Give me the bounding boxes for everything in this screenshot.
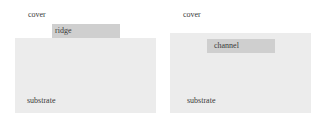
channel-label: channel [214, 41, 239, 51]
ridge-label: ridge [55, 26, 71, 36]
cover-label: cover [183, 10, 201, 20]
cover-label: cover [28, 10, 46, 20]
substrate-label: substrate [27, 96, 55, 106]
substrate-label: substrate [187, 96, 215, 106]
